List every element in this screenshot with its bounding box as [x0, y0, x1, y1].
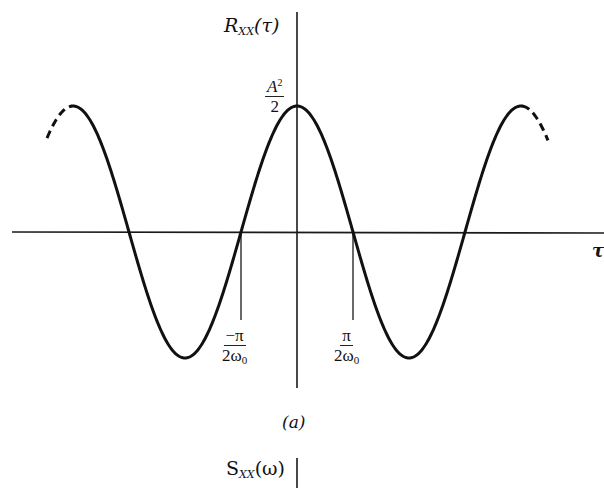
peak-label: A2 2 — [265, 74, 284, 115]
s-arg: (ω) — [255, 457, 285, 479]
peak-den: 2 — [270, 97, 279, 115]
tick-pos-label: π 2ω0 — [334, 327, 359, 369]
r-subscript: XX — [238, 25, 254, 38]
r-arg: (τ) — [254, 14, 279, 36]
s-subscript: XX — [239, 468, 255, 481]
tick-neg-den: 2ω — [222, 346, 242, 365]
tick-neg-sub: 0 — [242, 354, 248, 366]
tick-neg-label: −π 2ω0 — [222, 327, 247, 369]
s-axis-label: SXX(ω) — [226, 457, 285, 481]
tick-neg-num: −π — [224, 327, 246, 346]
tick-pos-sub: 0 — [354, 354, 360, 366]
peak-num: A — [267, 77, 277, 96]
cosine-dashed-right — [522, 106, 548, 140]
s-symbol: S — [226, 457, 239, 479]
tick-pos-num: π — [340, 327, 353, 346]
tick-pos-den: 2ω — [334, 346, 354, 365]
r-axis-label: RXX(τ) — [224, 14, 279, 38]
caption: (a) — [282, 412, 305, 432]
peak-sup: 2 — [277, 77, 282, 88]
tau-axis — [12, 232, 604, 233]
r-symbol: R — [224, 14, 238, 36]
tau-label: τ — [592, 240, 604, 261]
caption-text: (a) — [282, 412, 305, 432]
cosine-dashed-left — [47, 106, 72, 138]
